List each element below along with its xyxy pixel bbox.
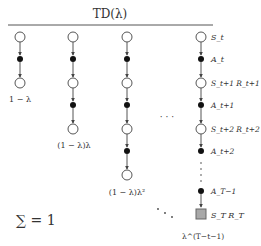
diagram-title: TD(λ)	[93, 7, 128, 21]
sum-equals-one: ∑ = 1	[16, 212, 56, 228]
action-node	[17, 56, 23, 62]
label-s-t1: S_t+1 R_t+1	[211, 79, 260, 88]
label-a-t1: A_t+1	[210, 101, 234, 110]
terminal-node	[196, 209, 206, 219]
action-node	[198, 56, 204, 62]
column-3: (1 − λ)λ²	[109, 32, 145, 197]
action-node	[70, 102, 76, 108]
weight-label: λ^(T−t−1)	[182, 232, 224, 241]
state-node	[68, 32, 78, 42]
weight-label: 1 − λ	[9, 95, 31, 104]
column-1: 1 − λ	[9, 32, 31, 104]
state-node	[122, 124, 132, 134]
weight-label: (1 − λ)λ²	[109, 188, 145, 197]
column-4: S_t A_t S_t+1 R_t+1 A_t+1 S_t+2 R_t+2 A_…	[182, 32, 260, 241]
state-node	[196, 78, 206, 88]
state-node	[68, 78, 78, 88]
state-node	[122, 32, 132, 42]
state-node	[196, 32, 206, 42]
state-node	[122, 170, 132, 180]
state-node	[68, 124, 78, 134]
column-2: (1 − λ)λ	[57, 32, 90, 150]
state-node	[15, 32, 25, 42]
state-node	[15, 78, 25, 88]
action-node	[198, 188, 204, 194]
state-node	[122, 78, 132, 88]
label-s-t2: S_t+2 R_t+2	[211, 125, 260, 134]
action-node	[124, 56, 130, 62]
label-s-T: S_T R_T	[211, 211, 244, 220]
horizontal-ellipsis: · · ·	[160, 112, 174, 122]
weight-label: (1 − λ)λ	[57, 141, 90, 150]
action-node	[124, 102, 130, 108]
action-node	[198, 148, 204, 154]
td-lambda-backup-diagram: TD(λ) 1 − λ (1 − λ)λ (1	[0, 0, 261, 246]
label-a-t2: A_t+2	[210, 147, 234, 156]
action-node	[70, 56, 76, 62]
state-node	[196, 124, 206, 134]
action-node	[198, 102, 204, 108]
label-a-t: A_t	[210, 55, 225, 64]
label-a-T1: A_T−1	[210, 187, 236, 196]
label-s-t: S_t	[211, 33, 224, 42]
action-node	[124, 148, 130, 154]
